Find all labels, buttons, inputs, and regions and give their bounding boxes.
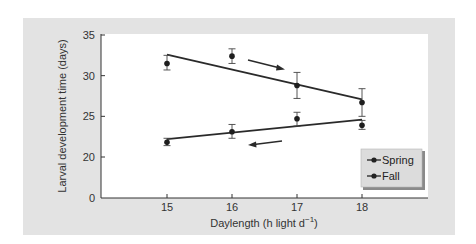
svg-text:Spring: Spring (382, 154, 414, 166)
data-point (164, 61, 170, 67)
x-tick-label: 18 (356, 201, 368, 213)
data-point (359, 122, 365, 128)
data-point (359, 100, 365, 106)
chart: 020253035 15161718 Larval development ti… (0, 0, 476, 244)
y-tick-label: 25 (83, 110, 95, 122)
y-tick-label: 0 (89, 192, 95, 204)
filled-circle-marker-icon (371, 157, 376, 162)
x-tick-label: 15 (161, 201, 173, 213)
x-tick-label: 16 (226, 201, 238, 213)
svg-text:Fall: Fall (382, 170, 400, 182)
x-tick-label: 17 (291, 201, 303, 213)
data-point (294, 83, 300, 89)
y-tick-label: 35 (83, 29, 95, 41)
data-point (229, 129, 235, 135)
y-axis-title: Larval development time (days) (56, 39, 68, 192)
y-tick-label: 30 (83, 70, 95, 82)
data-point (229, 53, 235, 59)
filled-circle-marker-icon (371, 173, 376, 178)
data-point (164, 140, 170, 146)
legend: Spring Fall (361, 149, 425, 190)
data-point (294, 116, 300, 122)
x-axis-title: Daylength (h light d−1) (210, 215, 318, 229)
y-tick-label: 20 (83, 151, 95, 163)
